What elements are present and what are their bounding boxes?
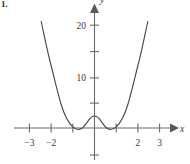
y-axis-arrowhead bbox=[90, 4, 99, 14]
coordinate-plot: −3 −2 2 3 10 20 x y bbox=[0, 0, 190, 164]
y-tick-label-10: 10 bbox=[77, 73, 87, 83]
figure-panel: 1. −3 −2 2 3 10 20 x y bbox=[0, 0, 190, 164]
x-tick-label-pos2: 2 bbox=[136, 138, 141, 148]
y-tick-label-20: 20 bbox=[77, 21, 87, 31]
x-tick-label-neg3: −3 bbox=[24, 138, 34, 148]
y-axis-label: y bbox=[99, 0, 105, 5]
x-axis-arrowhead bbox=[170, 124, 179, 133]
problem-number-label: 1. bbox=[1, 0, 7, 9]
x-axis-label: x bbox=[179, 124, 185, 134]
x-tick-label-pos3: 3 bbox=[157, 138, 162, 148]
x-tick-label-neg2: −2 bbox=[46, 138, 56, 148]
